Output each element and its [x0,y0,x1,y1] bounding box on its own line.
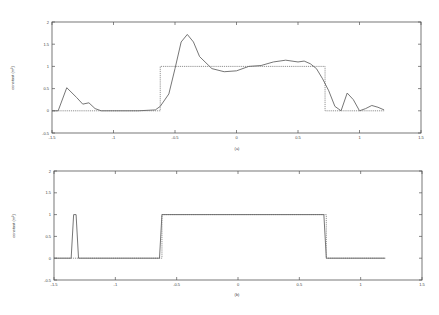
y-tick-label: 1.5 [45,190,51,195]
x-tick-label: -1 [112,135,116,140]
reconstruction-line [54,215,385,259]
figure: -1.5-1-0.500.511.5-0.500.511.52constant … [0,0,439,315]
panel-caption: (a) [235,146,241,151]
y-tick-label: 0 [49,256,52,261]
y-tick-label: 1 [49,212,52,217]
y-tick-label: 0.5 [45,234,51,239]
y-tick-label: 1.5 [43,42,49,47]
x-tick-label: -0.5 [172,135,180,140]
reconstruction-line [52,34,384,110]
x-tick-label: -0.5 [173,282,181,287]
plot-frame [54,171,422,280]
x-tick-label: -1.5 [51,282,59,287]
y-tick-label: 1 [47,64,50,69]
x-tick-label: 0.5 [295,135,301,140]
true-profile-line [54,215,385,259]
x-tick-label: 0 [237,282,240,287]
x-tick-label: 1.5 [419,282,425,287]
x-tick-label: 1 [358,135,361,140]
x-tick-label: 1.5 [418,135,424,140]
y-tick-label: 0.5 [43,86,49,91]
plot-frame [52,22,421,133]
y-axis-label: constant (m²) [11,214,16,238]
y-tick-label: 2 [47,20,50,25]
y-tick-label: 2 [49,169,52,174]
x-tick-label: -1 [114,282,118,287]
x-tick-label: 0.5 [297,282,303,287]
y-tick-label: -0.5 [42,131,50,136]
x-tick-label: 0 [235,135,238,140]
y-axis-label: constant (m²) [10,66,15,90]
x-tick-label: -1.5 [49,135,57,140]
panel-caption: (b) [235,292,241,297]
y-tick-label: 0 [47,108,50,113]
chart-panel-b: -1.5-1-0.500.511.5-0.500.511.52constant … [11,169,426,298]
x-tick-label: 1 [360,282,363,287]
chart-panel-a: -1.5-1-0.500.511.5-0.500.511.52constant … [10,20,425,152]
y-tick-label: -0.5 [44,278,52,283]
